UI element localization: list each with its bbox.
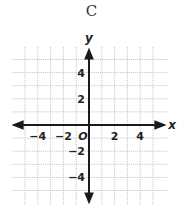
tick-labels: −4−22442−2−4Oxy (29, 31, 177, 184)
x-tick-label: −4 (29, 130, 46, 143)
origin-label: O (78, 130, 87, 143)
y-tick-label: 2 (77, 93, 85, 106)
x-tick-label: −2 (55, 130, 72, 143)
x-axis-label: x (167, 118, 177, 132)
coordinate-plane: −4−22442−2−4Oxy (0, 0, 183, 216)
y-tick-label: −4 (68, 171, 85, 184)
y-axis-label: y (85, 31, 94, 45)
x-tick-label: 2 (111, 130, 119, 143)
x-tick-label: 4 (136, 130, 144, 143)
y-tick-label: 4 (77, 67, 85, 80)
y-tick-label: −2 (68, 145, 85, 158)
